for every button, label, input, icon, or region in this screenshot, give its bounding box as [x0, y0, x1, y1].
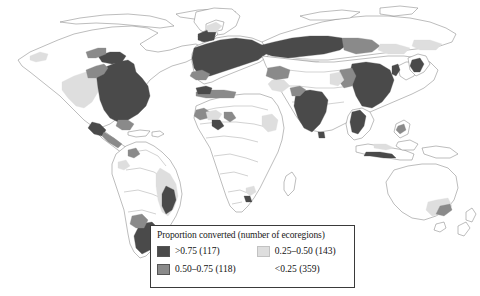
legend-swatch-gt-075	[157, 246, 170, 257]
legend-entry-gt-075: >0.75 (117)	[157, 246, 257, 257]
legend-label-gt-075: >0.75 (117)	[175, 246, 220, 257]
legend-title: Proportion converted (number of ecoregio…	[157, 229, 348, 241]
legend-label-025-050: 0.25–0.50 (143)	[275, 246, 336, 257]
legend-swatch-050-075	[157, 264, 170, 275]
legend-row-2: 0.50–0.75 (118) <0.25 (359)	[157, 262, 348, 277]
legend-entry-025-050: 0.25–0.50 (143)	[257, 246, 348, 257]
legend-entry-lt-025: <0.25 (359)	[257, 264, 348, 275]
map-legend: Proportion converted (number of ecoregio…	[150, 225, 355, 288]
legend-label-lt-025: <0.25 (359)	[275, 264, 320, 275]
legend-row-1: >0.75 (117) 0.25–0.50 (143)	[157, 244, 348, 259]
legend-label-050-075: 0.50–0.75 (118)	[175, 264, 236, 275]
figure-canvas: .ol{fill:#ffffff;stroke:#7a7a7a;stroke-w…	[0, 0, 480, 296]
legend-swatch-025-050	[257, 246, 270, 257]
legend-entry-050-075: 0.50–0.75 (118)	[157, 264, 257, 275]
